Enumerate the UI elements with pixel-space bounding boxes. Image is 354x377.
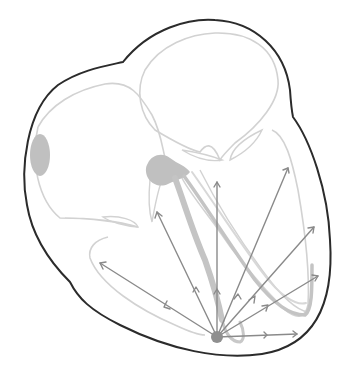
right-ventricle-outline [90,237,205,335]
vector-origin-dot [211,331,223,343]
bundle-branch-right-inner [192,172,306,304]
right-atrium-outline [38,83,165,158]
right-atrium-lower-outline [35,127,138,227]
arrow-upper-right [217,168,289,337]
arrow-right-2 [217,275,318,337]
heart-conduction-diagram [0,0,354,377]
bundle-branch-right-outer [184,176,312,315]
diagram-canvas [0,0,354,377]
sa-node [30,134,50,176]
vector-arrows [100,168,318,338]
